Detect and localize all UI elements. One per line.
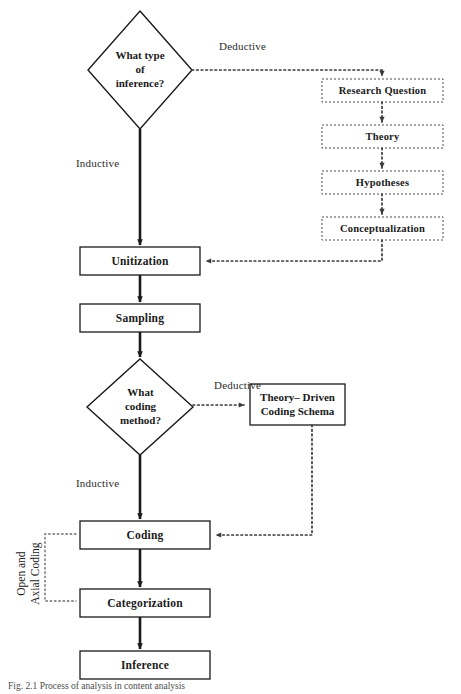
figure-caption: Fig. 2.1 Process of analysis in content … [8,681,338,691]
open-axial-line1: Open and [15,551,27,595]
bracket-open-axial-coding [45,534,76,601]
edge-label-open-axial-coding: Open and Axial Coding [15,529,42,619]
edge-label-inductive-top: Inductive [76,157,119,169]
theory-shape [322,125,443,148]
edge-label-deductive-mid: Deductive [214,379,261,391]
categorization-shape [80,589,210,617]
open-axial-line2: Axial Coding [29,542,41,604]
decision-coding-shape [87,359,193,455]
arrow-theory-driven-schema-to-coding [216,425,312,535]
sampling-shape [80,304,200,332]
arrow-deductive-to-research-question [192,70,382,76]
inference-shape [80,651,210,679]
edge-label-deductive-top: Deductive [219,40,266,52]
theory-driven-schema-shape [250,384,345,425]
figure-canvas: What type of inference? Research Questio… [0,0,461,694]
unitization-shape [80,247,200,275]
flowchart-graphics [0,0,461,694]
hypotheses-shape [322,171,443,194]
decision-inference-shape [88,11,192,129]
arrow-conceptualization-to-unitization [206,240,382,261]
edge-label-inductive-mid: Inductive [76,477,119,489]
coding-shape [80,521,210,549]
research-question-shape [322,79,443,102]
conceptualization-shape [322,217,443,240]
